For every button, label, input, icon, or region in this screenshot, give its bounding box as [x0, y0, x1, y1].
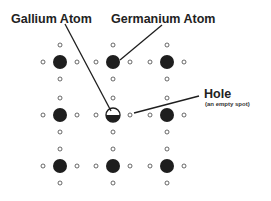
electron	[128, 60, 132, 64]
gallium-pointer-line	[65, 24, 111, 111]
electron	[41, 60, 45, 64]
electron	[182, 113, 186, 117]
electron	[111, 96, 115, 100]
electron	[75, 113, 79, 117]
gallium-atom-fill	[106, 115, 120, 122]
germanium-pointer-line	[120, 25, 162, 60]
electron	[111, 43, 115, 47]
electron	[111, 77, 115, 81]
electron	[148, 60, 152, 64]
electron	[165, 147, 169, 151]
electron	[41, 164, 45, 168]
germanium-atom	[53, 159, 67, 173]
electron	[75, 60, 79, 64]
electron	[128, 164, 132, 168]
electron	[182, 60, 186, 64]
electron	[41, 113, 45, 117]
germanium-atom	[160, 55, 174, 69]
electron	[165, 77, 169, 81]
electron	[111, 147, 115, 151]
germanium-atom	[106, 159, 120, 173]
electron	[165, 181, 169, 185]
electron	[182, 164, 186, 168]
electron	[58, 147, 62, 151]
electron	[148, 113, 152, 117]
electron	[58, 77, 62, 81]
electron	[58, 130, 62, 134]
germanium-atom-label: Germanium Atom	[111, 12, 215, 26]
electron	[111, 181, 115, 185]
electron	[165, 43, 169, 47]
germanium-atom	[160, 108, 174, 122]
electron	[111, 130, 115, 134]
germanium-atom	[106, 55, 120, 69]
gallium-atom-label: Gallium Atom	[11, 12, 92, 26]
electron	[94, 60, 98, 64]
germanium-atom	[53, 55, 67, 69]
electron	[58, 43, 62, 47]
electron	[128, 113, 132, 117]
electron	[94, 113, 98, 117]
germanium-atom	[160, 159, 174, 173]
electron	[94, 164, 98, 168]
electron	[58, 181, 62, 185]
electron	[148, 164, 152, 168]
hole-label: Hole	[204, 87, 231, 101]
germanium-atom	[53, 108, 67, 122]
hole-note: (an empty spot)	[205, 101, 250, 107]
electron	[165, 96, 169, 100]
electron	[58, 96, 62, 100]
electron	[165, 130, 169, 134]
lattice	[41, 43, 186, 185]
electron	[75, 164, 79, 168]
